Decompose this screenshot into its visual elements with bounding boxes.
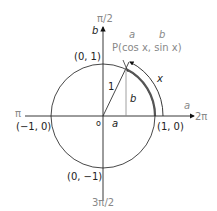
radius-line [103, 62, 129, 116]
p-b-label: b [159, 29, 165, 40]
point-right: (1, 0) [157, 121, 184, 132]
unit-circle-diagram: π/2 b a b P(cos x, sin x) (0, 1) x 1 b a… [0, 0, 217, 211]
angle-3pi-over-2: 3π/2 [92, 197, 114, 208]
point-bottom: (0, −1) [67, 171, 102, 182]
base-a-label: a [112, 118, 118, 129]
height-b-label: b [130, 93, 136, 104]
radius-label: 1 [108, 81, 114, 92]
horizontal-axis-label: a [184, 100, 190, 111]
point-p-label: P(cos x, sin x) [112, 42, 182, 53]
point-top: (0, 1) [74, 51, 101, 62]
vertical-axis-label: b [92, 25, 98, 36]
angle-2pi: 2π [195, 111, 207, 122]
origin-label: o [96, 119, 101, 128]
angle-pi-over-2: π/2 [97, 13, 113, 24]
arc-x-label: x [156, 73, 163, 84]
p-a-label: a [129, 29, 135, 40]
angle-pi: π [15, 108, 21, 119]
point-left: (−1, 0) [16, 121, 51, 132]
